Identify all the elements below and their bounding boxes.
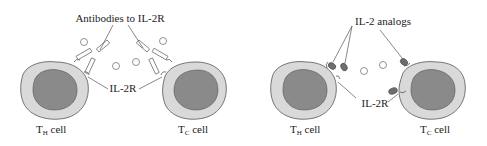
leader-line bbox=[345, 26, 352, 63]
il2-analog bbox=[339, 62, 348, 72]
right-panel: IL-2 analogs IL-2R TH cell TC cell bbox=[271, 15, 466, 137]
leader-line bbox=[100, 25, 113, 50]
diagram-canvas: Antibodies to IL-2R IL-2R TH cell TC cel… bbox=[0, 0, 487, 146]
il2r-receptor bbox=[326, 62, 328, 68]
tc-cell-right bbox=[399, 62, 465, 120]
analogs-label: IL-2 analogs bbox=[355, 15, 411, 27]
il2-analog bbox=[388, 87, 399, 96]
il2r-label: IL-2R bbox=[362, 97, 390, 109]
il2-molecule bbox=[160, 38, 167, 45]
il2r-receptor bbox=[336, 76, 340, 79]
il2r-receptor bbox=[161, 72, 166, 75]
antibodies-label: Antibodies to IL-2R bbox=[75, 12, 165, 24]
leader-line bbox=[333, 26, 352, 62]
il2-molecule bbox=[380, 62, 387, 69]
il2r-receptor bbox=[166, 59, 172, 62]
th-cell-left bbox=[21, 62, 89, 120]
cell-nucleus bbox=[283, 70, 327, 111]
il2-molecule bbox=[81, 39, 88, 46]
il2-molecule bbox=[133, 59, 140, 66]
tc-cell-label: TC cell bbox=[420, 123, 450, 137]
il2r-label: IL-2R bbox=[110, 82, 138, 94]
leader-line bbox=[88, 77, 108, 89]
cell-nucleus bbox=[411, 70, 455, 111]
th-cell-label: TH cell bbox=[290, 123, 320, 137]
leader-line bbox=[388, 94, 398, 102]
leader-line bbox=[380, 30, 402, 58]
antibody-left bbox=[76, 40, 110, 74]
tc-cell-label: TC cell bbox=[178, 123, 208, 137]
cell-nucleus bbox=[174, 70, 218, 110]
tc-cell-left bbox=[163, 62, 227, 119]
il2-molecule bbox=[361, 68, 368, 75]
il2-molecule bbox=[113, 63, 120, 70]
left-panel: Antibodies to IL-2R IL-2R TH cell TC cel… bbox=[21, 12, 227, 137]
leader-line bbox=[139, 77, 162, 89]
th-cell-label: TH cell bbox=[36, 123, 66, 137]
il2r-receptor bbox=[74, 59, 80, 62]
leader-line bbox=[338, 82, 356, 98]
th-cell-right bbox=[271, 62, 337, 120]
cell-nucleus bbox=[33, 70, 77, 111]
leader-line bbox=[128, 25, 143, 48]
